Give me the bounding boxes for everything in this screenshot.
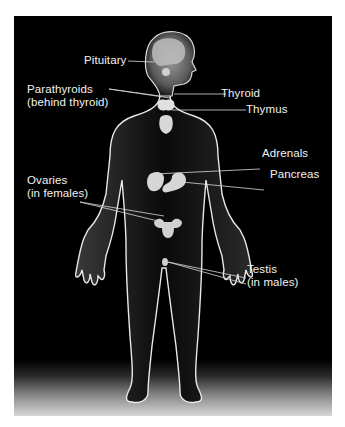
label-adrenals: Adrenals [262,147,308,160]
label-parathyroids: Parathyroids (behind thyroid) [27,83,109,109]
testis-gland [162,258,168,266]
label-testis: Testis (in males) [247,263,298,289]
brain [152,38,185,66]
diagram-panel: Pituitary Parathyroids (behind thyroid) … [14,16,332,416]
body-outline [76,94,253,403]
label-ovaries: Ovaries (in females) [27,174,88,200]
human-body-figure [14,16,332,416]
thyroid-gland [157,100,174,111]
pituitary-gland [162,68,170,76]
label-thyroid: Thyroid [221,87,260,100]
label-pituitary: Pituitary [84,54,126,67]
label-thymus: Thymus [246,103,288,116]
label-pancreas: Pancreas [270,168,319,181]
